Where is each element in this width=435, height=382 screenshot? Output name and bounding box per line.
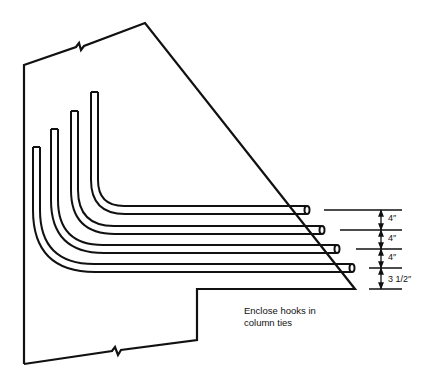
annotation-note-line-1: Enclose hooks in bbox=[244, 305, 354, 317]
hooked-bar-1 bbox=[91, 92, 310, 214]
dimension-label-1: 4″ bbox=[388, 213, 396, 224]
hooked-bars bbox=[33, 92, 355, 272]
dimension-label-4: 3 1/2″ bbox=[388, 274, 411, 285]
annotation-note: Enclose hooks in column ties bbox=[244, 305, 354, 329]
hook-detail-diagram bbox=[0, 0, 435, 382]
dimension-label-3: 4″ bbox=[388, 252, 396, 263]
annotation-note-line-2: column ties bbox=[244, 317, 354, 329]
hooked-bar-2 bbox=[71, 111, 325, 234]
dimension-label-2: 4″ bbox=[388, 233, 396, 244]
